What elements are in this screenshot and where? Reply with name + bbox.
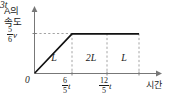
x-tick-2-variable: t — [109, 81, 112, 91]
y-axis-label-line1: A의 — [4, 5, 34, 16]
region-label-first: L — [44, 52, 64, 63]
x-tick-1-fraction: 6 5 — [62, 76, 68, 95]
y-tick-denominator: 6 — [7, 35, 13, 44]
y-tick-fraction: 5 6 — [7, 25, 13, 44]
region-label-second: 2L — [81, 52, 101, 63]
y-axis-label: A의 속도 — [4, 5, 34, 27]
origin-label: 0 — [25, 75, 30, 85]
x-tick-1-variable: t — [68, 81, 71, 91]
y-tick-numerator: 5 — [7, 25, 13, 35]
region-label-third: L — [114, 52, 134, 63]
x-tick-2-numerator: 12 — [99, 76, 109, 86]
y-tick-variable: v — [13, 30, 17, 40]
x-tick-label-1: 6 5 t — [62, 76, 71, 95]
x-tick-2-fraction: 12 5 — [99, 76, 109, 95]
x-axis-label: 시간 — [146, 78, 161, 91]
x-axis — [34, 71, 162, 77]
velocity-time-graph: A의 속도 5 6 v 0 6 5 t 12 5 t 3t 시간 L 2L L — [0, 0, 170, 101]
x-tick-1-numerator: 6 — [62, 76, 68, 86]
x-tick-2-denominator: 5 — [99, 86, 109, 95]
x-tick-1-denominator: 5 — [62, 86, 68, 95]
x-tick-label-2: 12 5 t — [99, 76, 112, 95]
y-tick-label: 5 6 v — [7, 26, 17, 44]
